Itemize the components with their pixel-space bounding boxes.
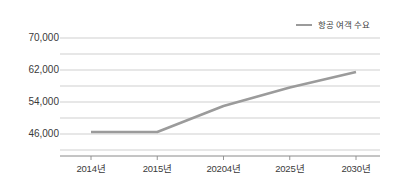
x-axis: [60, 156, 380, 160]
y-axis-tick-label: 62,000: [28, 65, 59, 75]
line-chart: 항공 여객 수요 70,00062,00054,00046,000 2014년2…: [0, 0, 393, 196]
x-axis-tick-label: 2014년: [76, 164, 105, 174]
x-axis-tick-label: 20204년: [206, 164, 240, 174]
x-axis-tick-label: 2030년: [341, 164, 370, 174]
y-axis-tick-label: 54,000: [28, 97, 59, 107]
y-axis-tick-label: 46,000: [28, 129, 59, 139]
x-axis-tick-label: 2015년: [143, 164, 172, 174]
x-axis-tick-label: 2025년: [275, 164, 304, 174]
plot-svg: [60, 38, 380, 150]
y-axis-tick-label: 70,000: [28, 33, 59, 43]
legend-swatch-icon: [296, 24, 312, 26]
chart-legend: 항공 여객 수요: [296, 17, 370, 33]
plot-area: [60, 38, 380, 150]
legend-item-label: 항공 여객 수요: [318, 21, 370, 30]
